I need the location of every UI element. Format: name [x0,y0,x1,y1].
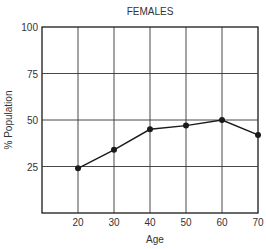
chart-title: FEMALES [127,6,174,17]
x-axis-label: Age [146,234,164,245]
data-series [75,117,261,171]
x-tick-label: 40 [144,217,156,228]
data-point-marker [183,123,189,129]
y-tick-label: 100 [21,22,38,33]
data-point-marker [219,117,225,123]
line-chart: FEMALES 255075100 203040506070 % Populat… [0,0,266,249]
x-tick-label: 30 [108,217,120,228]
y-tick-label: 75 [27,69,39,80]
x-tick-label: 70 [252,217,264,228]
x-axis-ticks: 203040506070 [72,217,264,228]
x-tick-label: 60 [216,217,228,228]
x-tick-label: 50 [180,217,192,228]
data-point-marker [255,132,261,138]
y-tick-label: 25 [27,162,39,173]
y-axis-ticks: 255075100 [21,22,38,173]
grid-lines [42,27,258,213]
y-axis-label: % Population [3,91,14,150]
data-point-marker [111,147,117,153]
x-tick-label: 20 [72,217,84,228]
series-line [78,120,258,168]
y-tick-label: 50 [27,115,39,126]
data-point-marker [147,126,153,132]
data-point-marker [75,165,81,171]
